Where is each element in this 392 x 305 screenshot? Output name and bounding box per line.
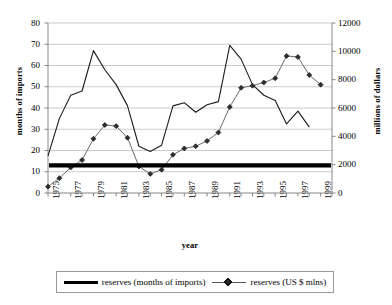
- data-point-marker: [250, 83, 255, 88]
- data-point-marker: [227, 104, 232, 109]
- data-point-marker: [148, 171, 153, 176]
- legend-entry-reserves-months: reserves (months of imports): [64, 277, 206, 287]
- legend-label-reserves-usd: reserves (US $ mlns): [250, 277, 326, 287]
- data-point-marker: [284, 53, 289, 58]
- series-line-reserves-months: [48, 45, 309, 156]
- legend-entry-reserves-usd: reserves (US $ mlns): [212, 277, 326, 287]
- chart-legend: reserves (months of imports) reserves (U…: [56, 271, 334, 293]
- data-point-marker: [261, 80, 266, 85]
- data-point-marker: [239, 85, 244, 90]
- chart-container: months of imports millions of dollars ye…: [0, 0, 392, 305]
- legend-label-reserves-months: reserves (months of imports): [102, 277, 206, 287]
- data-point-marker: [295, 55, 300, 60]
- data-point-marker: [193, 144, 198, 149]
- diamond-marker-swatch: [212, 278, 246, 287]
- plot-area: [0, 0, 392, 305]
- thick-line-swatch: [64, 281, 98, 284]
- data-point-marker: [273, 76, 278, 81]
- data-point-marker: [80, 158, 85, 163]
- data-point-marker: [182, 146, 187, 151]
